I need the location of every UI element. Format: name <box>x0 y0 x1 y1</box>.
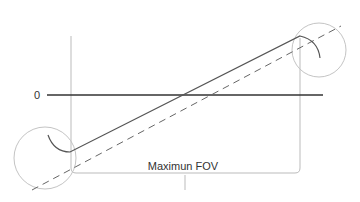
fov-label: Maximun FOV <box>148 160 219 172</box>
fov-bracket-frame <box>71 36 300 173</box>
left-end-circle <box>14 127 76 189</box>
zero-label: 0 <box>34 89 40 101</box>
fov-diagram: 0 Maximun FOV <box>0 0 360 202</box>
solid-response-line <box>48 36 320 152</box>
